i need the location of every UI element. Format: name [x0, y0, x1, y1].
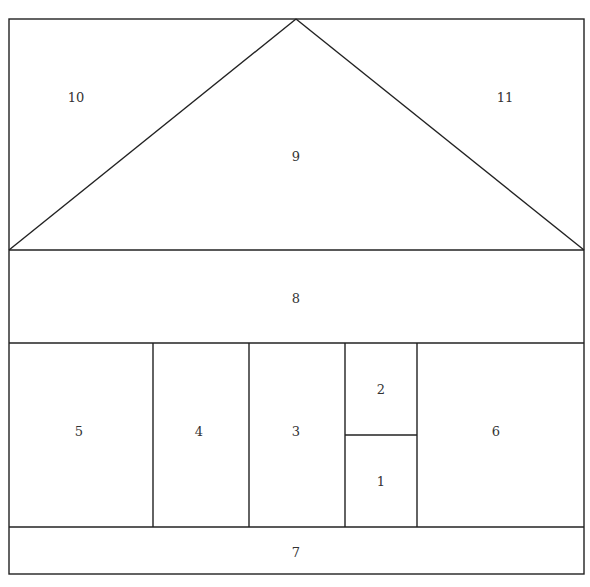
- label-region-5: 5: [75, 424, 83, 439]
- label-region-1: 1: [377, 474, 385, 489]
- label-region-4: 4: [195, 424, 203, 439]
- label-region-2: 2: [377, 382, 385, 397]
- label-region-11: 11: [497, 90, 514, 105]
- label-region-6: 6: [492, 424, 500, 439]
- label-region-7: 7: [292, 545, 300, 560]
- label-region-10: 10: [68, 90, 85, 105]
- label-region-9: 9: [292, 149, 300, 164]
- label-region-3: 3: [292, 424, 300, 439]
- label-region-8: 8: [292, 291, 300, 306]
- region-6: [417, 343, 584, 527]
